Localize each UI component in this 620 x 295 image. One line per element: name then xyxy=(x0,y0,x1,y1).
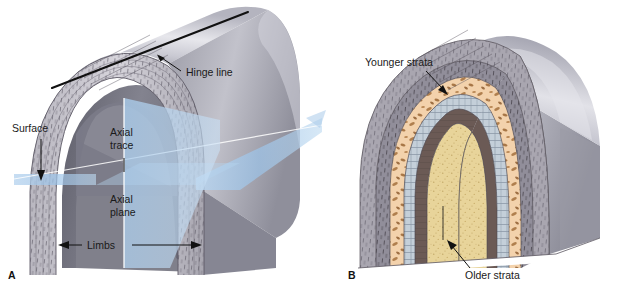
fold-diagram-figure: Hinge line Surface Axial trace Axial pla… xyxy=(0,0,620,295)
axial-trace-label-line2: trace xyxy=(110,139,134,151)
surface-plane-left-a xyxy=(14,174,96,185)
older-strata-label: Older strata xyxy=(465,269,520,281)
panel-label-b: B xyxy=(348,269,356,281)
axial-plane-annotation: Axial plane xyxy=(110,193,136,218)
hinge-line-label: Hinge line xyxy=(186,66,233,78)
axial-plane-label-line2: plane xyxy=(110,206,136,218)
diagram-canvas: Hinge line Surface Axial trace Axial pla… xyxy=(0,0,620,295)
axial-plane-label-line1: Axial xyxy=(110,193,133,205)
surface-label: Surface xyxy=(12,122,48,134)
panel-a: Hinge line Surface Axial trace Axial pla… xyxy=(8,7,322,281)
limbs-label: Limbs xyxy=(87,239,115,251)
axial-trace-label-line1: Axial xyxy=(110,126,133,138)
panel-b: Younger strata Older strata B xyxy=(306,30,600,281)
younger-strata-label: Younger strata xyxy=(365,56,433,68)
panel-label-a: A xyxy=(8,269,16,281)
block-right-edge-b xyxy=(560,128,600,250)
